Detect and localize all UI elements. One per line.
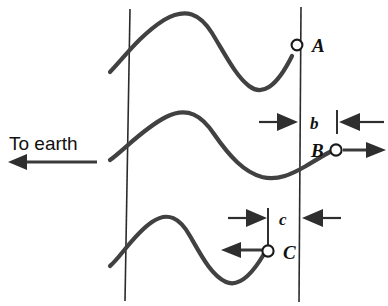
dimension-b-group: b <box>259 110 384 134</box>
point-marker-c <box>262 245 273 256</box>
arrow-right-icon <box>277 113 298 131</box>
reference-line-right <box>299 7 301 302</box>
point-c-motion-arrow <box>221 242 262 258</box>
to-earth-arrow <box>8 154 97 170</box>
point-marker-a <box>292 40 303 51</box>
arrow-left-icon <box>302 209 323 227</box>
diagram-canvas: To earth A b B <box>0 0 388 306</box>
arrow-left-icon <box>221 242 241 258</box>
wave-crest-top <box>110 13 292 90</box>
to-earth-label: To earth <box>9 133 78 154</box>
wave-diagram-figure: To earth A b B <box>0 0 388 306</box>
point-b-motion-arrow <box>343 142 386 158</box>
arrow-right-icon <box>366 142 386 158</box>
dimension-label-c: c <box>279 210 287 229</box>
dimension-label-b: b <box>310 114 319 133</box>
point-label-a: A <box>311 35 325 56</box>
point-label-b: B <box>310 140 324 161</box>
point-marker-b <box>330 144 341 155</box>
arrow-right-icon <box>246 209 267 227</box>
point-label-c: C <box>283 242 296 263</box>
arrow-left-icon <box>339 113 360 131</box>
arrow-left-icon <box>8 154 27 170</box>
